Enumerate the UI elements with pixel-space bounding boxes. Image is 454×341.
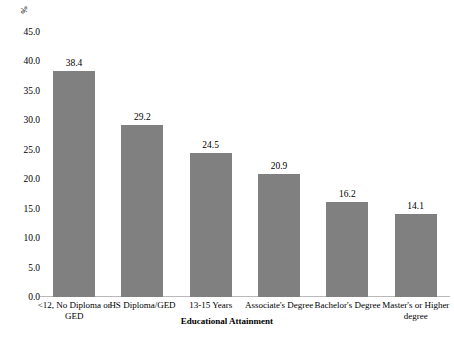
bar-value-label: 24.5: [177, 140, 245, 151]
bar[interactable]: [395, 214, 437, 297]
bar-value-label: 38.4: [40, 58, 108, 69]
bar[interactable]: [258, 174, 300, 297]
y-axis-tick-label: 20.0: [6, 174, 40, 184]
plot-area: 38.429.224.520.916.214.1: [40, 32, 450, 297]
bar[interactable]: [121, 125, 163, 297]
bar[interactable]: [53, 71, 95, 297]
bar-value-label: 20.9: [245, 161, 313, 172]
bar[interactable]: [190, 153, 232, 297]
y-axis-tick-label: 0.0: [6, 292, 40, 302]
y-axis-tick-label: 5.0: [6, 263, 40, 273]
bar-chart: % 0.05.010.015.020.025.030.035.040.045.0…: [0, 0, 454, 341]
bar-value-label: 29.2: [108, 112, 176, 123]
y-axis-tick-label: 25.0: [6, 145, 40, 155]
x-axis-title: Educational Attainment: [0, 316, 454, 327]
bar[interactable]: [326, 202, 368, 297]
x-axis-category-label: Bachelor's Degree: [310, 300, 386, 311]
x-axis-category-label: 13-15 Years: [173, 300, 249, 311]
y-axis-tick-label: 10.0: [6, 233, 40, 243]
y-axis-tick-label: 45.0: [6, 27, 40, 37]
y-axis-tick-label: 30.0: [6, 115, 40, 125]
x-axis-category-label: HS Diploma/GED: [105, 300, 181, 311]
bar-value-label: 14.1: [382, 201, 450, 212]
x-axis-baseline: [40, 296, 450, 297]
y-axis-tick-label: 35.0: [6, 86, 40, 96]
x-axis-category-label: Associate's Degree: [241, 300, 317, 311]
y-axis-tick-label: 40.0: [6, 56, 40, 66]
bar-value-label: 16.2: [313, 189, 381, 200]
y-axis-tick-label: 15.0: [6, 204, 40, 214]
y-axis-tick-labels: 0.05.010.015.020.025.030.035.040.045.0: [0, 0, 40, 341]
